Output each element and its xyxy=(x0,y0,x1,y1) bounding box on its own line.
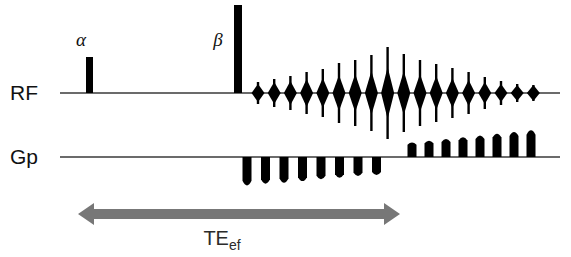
rf-channel-label: RF xyxy=(10,81,38,104)
rf-echo xyxy=(381,47,394,139)
gp-dephase-lobe xyxy=(261,157,270,184)
rf-echo-spike xyxy=(467,72,469,114)
rf-echo xyxy=(268,79,281,107)
rf-echo-spike xyxy=(289,76,291,110)
rf-echo-spike xyxy=(322,69,324,117)
rf-echo xyxy=(430,64,443,122)
rf-echo xyxy=(333,63,346,123)
te-ef-arrow-shape xyxy=(78,203,400,225)
alpha-pulse-label: α xyxy=(76,29,87,50)
rf-echo-spike xyxy=(403,54,405,132)
rf-echo-spike xyxy=(435,64,437,122)
rf-echo-spike xyxy=(257,82,259,104)
rf-pulse-alpha: α xyxy=(76,29,93,93)
gp-rephase-lobe-group xyxy=(408,130,536,157)
te-ef-label-subscript: ef xyxy=(229,237,241,253)
rf-echo xyxy=(511,84,524,102)
rf-echo xyxy=(478,77,491,109)
rf-echo xyxy=(527,85,540,101)
rf-echo xyxy=(414,60,427,126)
rf-echo xyxy=(316,69,329,117)
beta-pulse-bar xyxy=(234,5,242,93)
gp-rephase-lobe xyxy=(459,137,468,157)
gp-rephase-lobe xyxy=(408,142,417,157)
gp-rephase-lobe xyxy=(425,141,434,157)
rf-echo xyxy=(300,72,313,114)
rf-echo-spike xyxy=(532,85,534,101)
gp-channel-label: Gp xyxy=(10,145,38,168)
pulse-sequence-diagram: RF α β Gp TEef xyxy=(0,0,571,257)
rf-echo-spike xyxy=(516,84,518,102)
gp-dephase-lobe xyxy=(372,157,381,175)
gp-dephase-lobe xyxy=(354,157,363,176)
te-ef-label-main: TE xyxy=(203,227,229,249)
gp-dephase-lobe-group xyxy=(243,157,382,185)
rf-echo xyxy=(252,82,265,104)
rf-echo-spike xyxy=(484,77,486,109)
beta-pulse-label: β xyxy=(212,29,223,50)
gp-dephase-lobe xyxy=(335,157,344,178)
rf-echo-spike xyxy=(386,47,388,139)
rf-echo-spike xyxy=(451,68,453,118)
gp-dephase-lobe xyxy=(298,157,307,181)
rf-echo-spike xyxy=(338,63,340,123)
gp-rephase-lobe xyxy=(510,132,519,157)
rf-echo xyxy=(495,81,508,105)
gp-dephase-lobe xyxy=(243,157,252,185)
rf-echo-spike xyxy=(500,81,502,105)
rf-echo-spike xyxy=(370,55,372,131)
te-ef-timing-arrow: TEef xyxy=(78,203,400,253)
rf-echo-spike xyxy=(273,79,275,107)
rf-echo xyxy=(462,72,475,114)
rf-echo-spike xyxy=(305,72,307,114)
gp-dephase-lobe xyxy=(317,157,326,179)
gp-rephase-lobe xyxy=(527,130,536,157)
rf-echo xyxy=(284,76,297,110)
rf-echo-spike xyxy=(419,60,421,126)
gp-rephase-lobe xyxy=(476,136,485,158)
rf-echo-spike xyxy=(354,60,356,126)
rf-echo xyxy=(446,68,459,118)
rf-pulse-beta: β xyxy=(212,5,242,93)
rf-echo xyxy=(397,54,410,132)
gp-dephase-lobe xyxy=(280,157,289,183)
gp-rephase-lobe xyxy=(493,134,502,157)
rf-echo xyxy=(349,60,362,126)
alpha-pulse-bar xyxy=(86,57,93,93)
rf-echo xyxy=(365,55,378,131)
gp-rephase-lobe xyxy=(442,139,451,157)
te-ef-label: TEef xyxy=(203,227,240,253)
